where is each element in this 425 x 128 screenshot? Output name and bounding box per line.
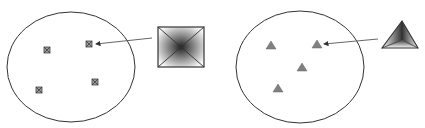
square-pyramid-callout-icon xyxy=(158,27,204,67)
triangle-marker xyxy=(273,84,283,92)
square-marker xyxy=(86,41,92,47)
square-marker xyxy=(36,87,42,93)
left-panel xyxy=(7,12,204,122)
triangle-marker xyxy=(312,40,322,48)
square-marker xyxy=(92,79,98,85)
diagram-svg xyxy=(0,0,425,128)
diagram-canvas xyxy=(0,0,425,128)
square-marker xyxy=(44,47,50,53)
triangle-marker xyxy=(266,41,276,49)
left-boundary-ellipse xyxy=(7,12,135,122)
left-callout-arrow xyxy=(96,38,152,44)
right-panel xyxy=(236,11,418,123)
triangle-pyramid-callout-icon xyxy=(382,21,418,48)
triangle-marker xyxy=(297,63,307,71)
right-callout-arrow xyxy=(324,39,378,44)
